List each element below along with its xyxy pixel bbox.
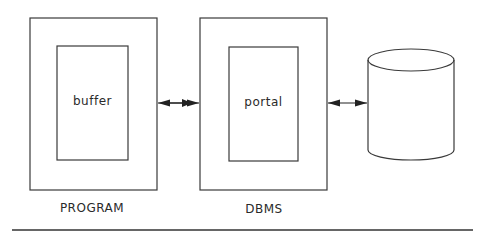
program-label: PROGRAM: [60, 201, 124, 215]
arrowhead-left-icon: [328, 100, 340, 107]
database-cylinder-icon: [368, 49, 454, 160]
dbms-node: portal DBMS: [200, 18, 327, 216]
buffer-label: buffer: [73, 94, 112, 108]
arrowhead-right-icon: [355, 100, 367, 107]
arrowhead-left-icon: [158, 100, 170, 107]
program-node: buffer PROGRAM: [30, 18, 157, 215]
program-dbms-arrow-group: [158, 100, 199, 107]
arrowhead-right-icon: [187, 100, 199, 107]
portal-label: portal: [244, 95, 282, 109]
diagram-canvas: buffer PROGRAM portal DBMS: [0, 0, 490, 233]
dbms-label: DBMS: [245, 202, 282, 216]
dbms-database-arrow-group: [328, 100, 367, 107]
